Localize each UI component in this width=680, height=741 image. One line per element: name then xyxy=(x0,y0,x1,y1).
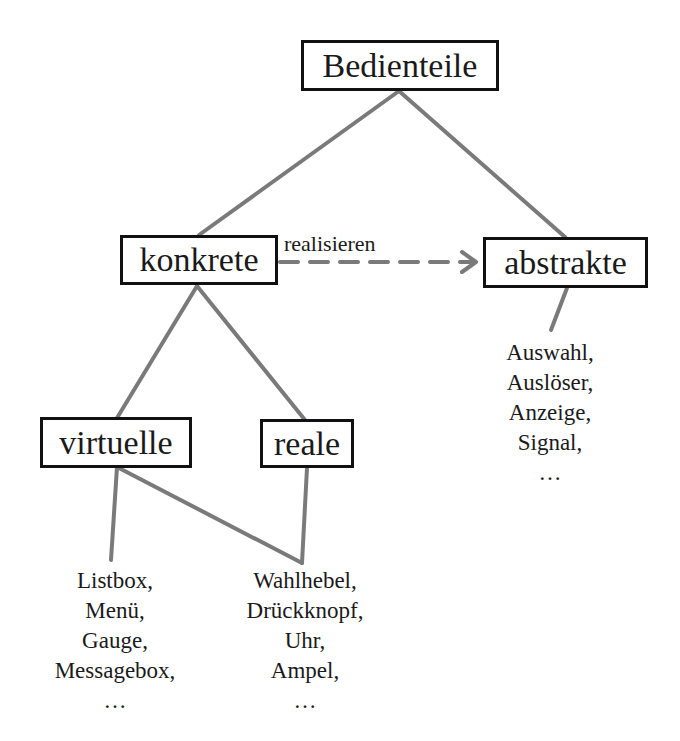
node-reale: reale xyxy=(260,419,354,468)
node-label: Bedienteile xyxy=(323,49,478,83)
list-item: Menü, xyxy=(25,596,205,626)
node-virtuelle: virtuelle xyxy=(40,417,192,468)
list-item: Messagebox, xyxy=(25,656,205,686)
list-item: … xyxy=(25,686,205,716)
node-konkrete: konkrete xyxy=(120,235,278,285)
node-label: virtuelle xyxy=(59,426,172,460)
edge-reale-list xyxy=(302,468,307,563)
edge-virtuelle-list xyxy=(111,467,117,560)
edge-abstrakte-list xyxy=(551,288,567,330)
list-item: Ampel, xyxy=(220,656,390,686)
edge-bedienteile-abstrakte xyxy=(399,91,565,237)
edge-konkrete-reale xyxy=(197,286,305,420)
list-reale: Wahlhebel, Drückknopf, Uhr, Ampel, … xyxy=(220,566,390,716)
relation-label: realisieren xyxy=(284,231,376,257)
list-item: Listbox, xyxy=(25,566,205,596)
list-abstrakte: Auswahl, Auslöser, Anzeige, Signal, … xyxy=(470,338,630,488)
node-bedienteile: Bedienteile xyxy=(301,40,499,91)
node-label: konkrete xyxy=(140,243,259,277)
edge-konkrete-virtuelle xyxy=(117,286,197,418)
list-item: … xyxy=(220,686,390,716)
list-virtuelle: Listbox, Menü, Gauge, Messagebox, … xyxy=(25,566,205,716)
list-item: Uhr, xyxy=(220,626,390,656)
list-item: Signal, xyxy=(470,428,630,458)
node-label: abstrakte xyxy=(504,246,627,280)
list-item: Wahlhebel, xyxy=(220,566,390,596)
list-item: Auswahl, xyxy=(470,338,630,368)
list-item: Drückknopf, xyxy=(220,596,390,626)
list-item: Gauge, xyxy=(25,626,205,656)
node-abstrakte: abstrakte xyxy=(483,237,648,288)
list-item: Auslöser, xyxy=(470,368,630,398)
edge-virtuelle-reale-list xyxy=(117,467,302,563)
list-item: … xyxy=(470,458,630,488)
edge-bedienteile-konkrete xyxy=(199,91,399,235)
node-label: reale xyxy=(274,427,340,461)
list-item: Anzeige, xyxy=(470,398,630,428)
